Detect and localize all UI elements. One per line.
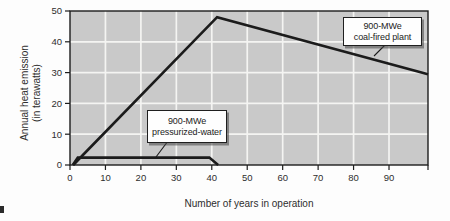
- callout-pwr-line1: 900-MWe: [148, 116, 226, 127]
- y-tick-label: 40: [51, 36, 62, 47]
- x-tick-label: 50: [242, 172, 253, 183]
- x-tick-label: 0: [67, 172, 72, 183]
- page-scan-artifact: [0, 206, 4, 213]
- callout-pwr-line2: pressurized-water: [148, 127, 226, 138]
- x-axis-label: Number of years in operation: [70, 198, 428, 209]
- x-tick-label: 20: [136, 172, 147, 183]
- x-tick-label: 40: [206, 172, 217, 183]
- y-axis-label-line2: (in terawatts): [31, 13, 43, 173]
- x-tick-label: 10: [100, 172, 111, 183]
- y-tick-label: 30: [51, 67, 62, 78]
- callout-coal-fired-plant: 900-MWe coal-fired plant: [343, 17, 422, 46]
- callout-coal-line1: 900-MWe: [344, 21, 421, 32]
- x-tick-label: 30: [171, 172, 182, 183]
- x-tick-label: 60: [277, 172, 288, 183]
- y-tick-label: 10: [51, 129, 62, 140]
- y-tick-label: 20: [51, 98, 62, 109]
- callout-coal-line2: coal-fired plant: [344, 32, 421, 43]
- y-axis-label: Annual heat emission (in terawatts): [19, 13, 43, 173]
- y-tick-label: 0: [57, 159, 62, 170]
- chart-figure: 010203040506070809001020304050 Annual he…: [0, 0, 450, 221]
- x-tick-label: 90: [384, 172, 395, 183]
- y-tick-label: 50: [51, 5, 62, 16]
- x-tick-label: 70: [313, 172, 324, 183]
- x-tick-label: 80: [348, 172, 359, 183]
- y-axis-label-line1: Annual heat emission: [19, 13, 31, 173]
- callout-pressurized-water: 900-MWe pressurized-water: [147, 110, 227, 143]
